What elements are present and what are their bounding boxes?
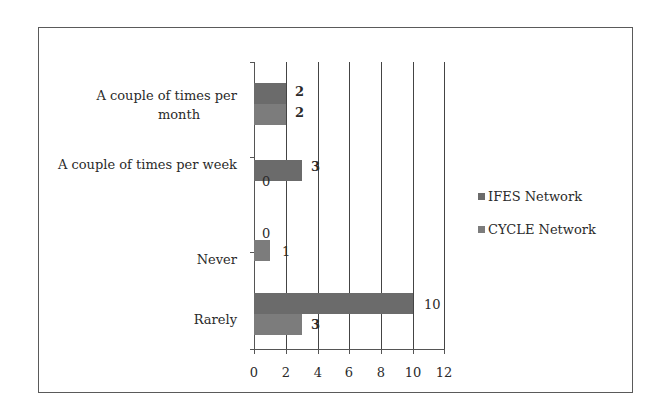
- x-tick-label: 10: [405, 365, 422, 380]
- bar-ifes-month: [254, 83, 286, 104]
- x-tick: [381, 350, 382, 354]
- value-label-ifes-rarely: 10: [424, 298, 441, 312]
- category-label-never: Never: [197, 250, 237, 269]
- category-label-line: A couple of times per: [96, 86, 237, 105]
- value-label-ifes-never: 0: [262, 227, 270, 241]
- x-tick: [349, 350, 350, 354]
- x-tick-label: 2: [282, 365, 290, 380]
- value-label-cycle-never: 1: [282, 245, 290, 259]
- gridline: [444, 62, 445, 350]
- x-tick: [254, 350, 255, 354]
- bar-cycle-rarely: [254, 314, 302, 335]
- x-tick-label: 6: [345, 365, 353, 380]
- y-tick: [250, 157, 254, 158]
- value-label-ifes-month: 2: [295, 85, 304, 99]
- x-axis: [250, 349, 445, 350]
- category-label-line: month: [96, 105, 237, 124]
- legend-item-ifes: IFES Network: [478, 189, 582, 204]
- value-label-cycle-week: 0: [262, 175, 270, 189]
- gridline: [413, 62, 414, 350]
- bar-cycle-month: [254, 104, 286, 125]
- legend-swatch-icon: [478, 226, 485, 233]
- x-tick: [413, 350, 414, 354]
- legend-item-cycle: CYCLE Network: [478, 222, 596, 237]
- legend-label: CYCLE Network: [488, 222, 596, 237]
- y-tick: [250, 62, 254, 63]
- category-label-month: A couple of times per month: [96, 86, 237, 124]
- bar-ifes-rarely: [254, 293, 413, 314]
- x-tick: [318, 350, 319, 354]
- value-label-cycle-month: 2: [295, 106, 304, 120]
- category-label-week: A couple of times per week: [58, 155, 237, 174]
- x-tick-label: 12: [436, 365, 453, 380]
- x-tick-label: 8: [377, 365, 385, 380]
- value-label-cycle-rarely: 3: [311, 318, 320, 332]
- x-tick-label: 0: [250, 365, 258, 380]
- bar-cycle-never: [254, 240, 270, 261]
- x-tick: [286, 350, 287, 354]
- category-label-rarely: Rarely: [194, 310, 237, 329]
- value-label-ifes-week: 3: [311, 160, 320, 174]
- x-tick: [444, 350, 445, 354]
- plot-area: 2 2 3 0 0 1 10 3: [254, 62, 445, 350]
- x-tick-label: 4: [314, 365, 322, 380]
- legend-swatch-icon: [478, 193, 485, 200]
- legend-label: IFES Network: [488, 189, 582, 204]
